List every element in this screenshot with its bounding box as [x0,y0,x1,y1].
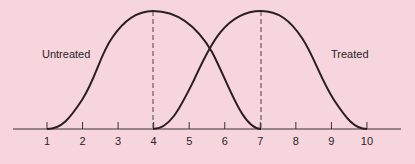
x-tick-label: 9 [328,135,334,147]
treated-curve [153,11,367,129]
curve-diagram: 12345678910 Untreated Treated [0,0,415,164]
x-tick-label: 5 [186,135,192,147]
x-tick-label: 1 [44,135,50,147]
diagram: 12345678910 Untreated Treated [0,0,415,164]
x-tick-label: 7 [257,135,263,147]
x-tick-label: 8 [293,135,299,147]
untreated-curve [47,11,261,129]
x-tick-label: 6 [222,135,228,147]
x-axis-tick-labels: 12345678910 [44,135,373,147]
x-axis-ticks [47,122,367,129]
x-tick-label: 10 [361,135,373,147]
x-tick-label: 4 [151,135,157,147]
x-tick-label: 2 [79,135,85,147]
x-tick-label: 3 [115,135,121,147]
untreated-label: Untreated [42,48,90,60]
treated-label: Treated [331,48,369,60]
